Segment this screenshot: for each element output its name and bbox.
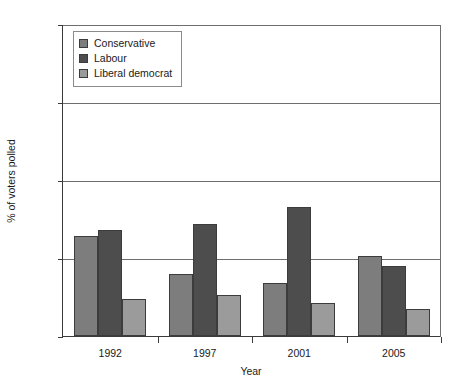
bar-labour-1992 bbox=[98, 230, 122, 336]
chart-legend: ConservativeLabourLiberal democrat bbox=[73, 31, 182, 87]
legend-item-labour: Labour bbox=[79, 51, 172, 66]
legend-swatch-icon bbox=[79, 69, 88, 78]
bar-liberal-democrat-2001 bbox=[311, 303, 335, 336]
x-tick-label-1992: 1992 bbox=[80, 347, 140, 359]
bar-liberal-democrat-1997 bbox=[217, 295, 241, 336]
bar-conservative-1992 bbox=[74, 236, 98, 336]
y-axis-title: % of voters polled bbox=[5, 139, 17, 222]
legend-label: Labour bbox=[94, 53, 127, 64]
y-tick-100 bbox=[58, 25, 63, 26]
legend-label: Conservative bbox=[94, 38, 155, 49]
bar-labour-2005 bbox=[382, 266, 406, 336]
gridline-75 bbox=[63, 103, 441, 104]
legend-label: Liberal democrat bbox=[94, 68, 172, 79]
x-tick-2005 bbox=[441, 337, 442, 343]
bar-liberal-democrat-2005 bbox=[406, 309, 430, 336]
y-tick-75 bbox=[58, 103, 63, 104]
gridline-50 bbox=[63, 181, 441, 182]
bar-conservative-1997 bbox=[169, 274, 193, 336]
bar-conservative-2005 bbox=[358, 256, 382, 336]
legend-item-conservative: Conservative bbox=[79, 36, 172, 51]
y-tick-0 bbox=[58, 337, 63, 338]
x-tick-2001 bbox=[347, 337, 348, 343]
x-axis-title: Year bbox=[240, 365, 261, 377]
bar-liberal-democrat-1992 bbox=[122, 299, 146, 336]
legend-swatch-icon bbox=[79, 54, 88, 63]
x-tick-label-1997: 1997 bbox=[175, 347, 235, 359]
bar-conservative-2001 bbox=[263, 283, 287, 336]
legend-swatch-icon bbox=[79, 39, 88, 48]
legend-item-liberal-democrat: Liberal democrat bbox=[79, 66, 172, 81]
x-tick-1997 bbox=[252, 337, 253, 343]
x-tick-label-2005: 2005 bbox=[364, 347, 424, 359]
x-tick-1992 bbox=[158, 337, 159, 343]
x-tick-label-2001: 2001 bbox=[269, 347, 329, 359]
bar-labour-2001 bbox=[287, 207, 311, 336]
y-tick-50 bbox=[58, 181, 63, 182]
bar-labour-1997 bbox=[193, 224, 217, 336]
bar-chart: % of voters polled 1992199720012005 0255… bbox=[0, 0, 452, 390]
gridline-100 bbox=[63, 25, 441, 26]
y-tick-25 bbox=[58, 259, 63, 260]
